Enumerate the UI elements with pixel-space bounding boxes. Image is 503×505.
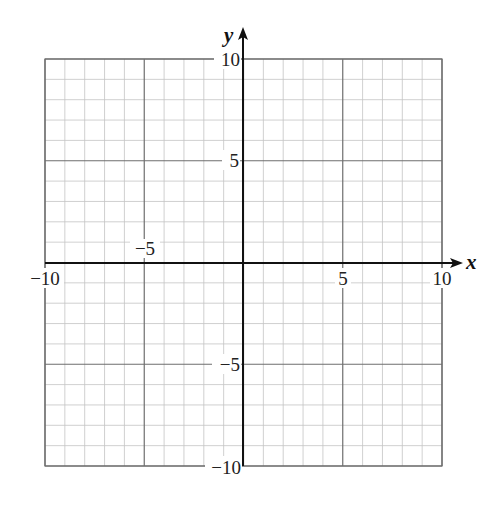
x-tick-10: 10 <box>433 268 452 289</box>
x-axis-label: x <box>465 250 477 274</box>
x-tick-5: 5 <box>338 268 348 289</box>
x-tick-neg5: −5 <box>135 238 155 259</box>
y-tick-neg10: −10 <box>211 457 241 478</box>
y-tick-10: 10 <box>221 49 240 70</box>
y-tick-5: 5 <box>230 150 240 171</box>
y-tick-neg5: −5 <box>220 354 240 375</box>
x-tick-neg10: −10 <box>30 268 60 289</box>
y-axis-label: y <box>221 23 234 47</box>
coordinate-plane: x y 10 5 −5 −10 −10 −5 5 10 <box>0 0 503 505</box>
